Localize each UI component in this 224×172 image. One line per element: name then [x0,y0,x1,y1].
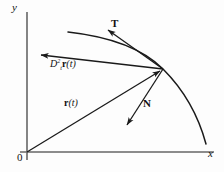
normal-vector-label: N [143,98,151,109]
second-derivative-label-order: 2 [57,58,60,64]
trajectory-curve [68,32,206,144]
x-axis-label: x [208,148,213,159]
position-vector-label-arg: (t) [68,97,77,108]
second-derivative-label: D2tr(t) [50,58,76,71]
position-vector-label: r(t) [64,98,78,108]
tangent-vector-label: T [111,18,118,29]
y-axis-label: y [12,2,17,13]
vector-diagram-figure: y x 0 T N r(t) D2tr(t) [0,0,224,172]
position-vector-arrow [27,71,160,152]
second-derivative-label-arg: (t) [66,58,75,69]
origin-label: 0 [17,152,23,163]
